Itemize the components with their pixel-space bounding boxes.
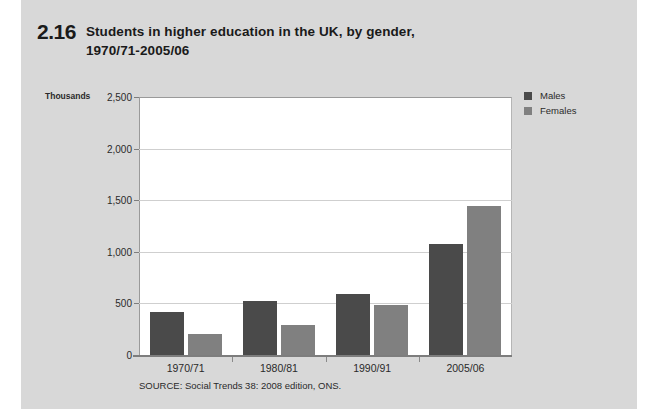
y-axis-tick-label: 0 [126, 350, 132, 361]
bar-series-group [139, 97, 512, 355]
x-axis-tick-label: 1980/81 [260, 362, 298, 374]
legend-label-females: Females [540, 106, 576, 116]
chart-plot: 05001,0001,5002,0002,500 [139, 97, 512, 355]
bar-males-1970-71 [150, 312, 184, 355]
legend-item-females: Females [524, 106, 576, 116]
bar-females-1970-71 [188, 334, 222, 355]
figure-header: 2.16 Students in higher education in the… [37, 22, 517, 60]
bar-males-1980-81 [243, 301, 277, 355]
figure-title-line-2: 1970/71-2005/06 [86, 41, 415, 60]
bar-females-2005-06 [467, 206, 501, 355]
y-axis-tick-label: 1,000 [107, 246, 132, 257]
bar-males-2005-06 [429, 244, 463, 355]
y-axis-tick-label: 2,000 [107, 143, 132, 154]
y-axis-tick-label: 2,500 [107, 92, 132, 103]
legend-swatch-males [524, 92, 532, 100]
figure-number: 2.16 [37, 22, 76, 41]
x-axis-tick-mark [419, 357, 420, 362]
legend-swatch-females [524, 107, 532, 115]
legend-label-males: Males [540, 91, 565, 101]
x-axis-tick-label: 1990/91 [353, 362, 391, 374]
legend-item-males: Males [524, 91, 576, 101]
figure-panel: 2.16 Students in higher education in the… [21, 0, 637, 409]
source-note: SOURCE: Social Trends 38: 2008 edition, … [139, 380, 341, 391]
y-axis-unit-label: Thousands [45, 91, 90, 101]
x-axis-tick-label: 2005/06 [446, 362, 484, 374]
chart-legend: Males Females [524, 91, 576, 121]
bar-females-1980-81 [281, 325, 315, 355]
x-axis: 1970/711980/811990/912005/06 [139, 357, 512, 379]
figure-title-line-1: Students in higher education in the UK, … [86, 22, 415, 41]
page-title: Students in higher education in the UK, … [86, 22, 415, 60]
x-axis-tick-label: 1970/71 [167, 362, 205, 374]
x-axis-tick-mark [326, 357, 327, 362]
x-axis-tick-mark [232, 357, 233, 362]
bar-females-1990-91 [374, 305, 408, 355]
y-axis-tick-label: 1,500 [107, 195, 132, 206]
y-axis-tick-label: 500 [115, 298, 132, 309]
bar-males-1990-91 [336, 294, 370, 355]
